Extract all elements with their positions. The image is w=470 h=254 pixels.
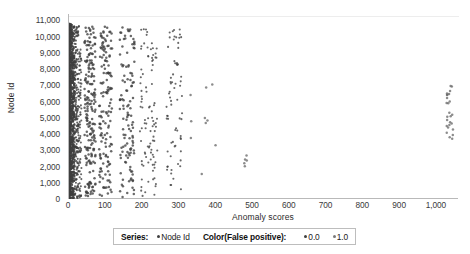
chart-legend[interactable]: Series: Node Id Color(False positive): 0… [113,228,356,245]
x-tick-label: 0 [66,200,71,210]
x-tick-label: 700 [319,200,333,210]
y-tick-label: 9,000 [40,48,60,58]
y-tick-label: 5,000 [40,113,60,123]
legend-series-dot [157,235,160,238]
x-tick-label: 300 [172,200,186,210]
y-tick-label: 1,000 [40,178,60,188]
y-tick-label: 0 [55,194,60,204]
x-tick-label: 200 [135,200,149,210]
y-axis-tick-labels: 01,0002,0003,0004,0005,0006,0007,0008,00… [8,10,64,202]
x-tick-label: 500 [245,200,259,210]
legend-color-label: Color(False positive): [203,232,286,242]
legend-color-value-1: 1.0 [337,232,348,242]
scatter-chart: Node Id 01,0002,0003,0004,0005,0006,0007… [0,0,470,254]
legend-color-entry-0[interactable]: 0.0 [304,232,319,242]
scatter-points-canvas [69,14,459,199]
legend-series-label: Series: [121,232,148,242]
y-tick-label: 3,000 [40,145,60,155]
legend-color-value-0: 0.0 [308,232,319,242]
legend-color-entry-1[interactable]: 1.0 [333,232,348,242]
legend-color-dot-0 [304,235,307,238]
y-tick-label: 2,000 [40,162,60,172]
y-tick-label: 7,000 [40,80,60,90]
x-tick-label: 400 [208,200,222,210]
x-axis-title: Anomaly scores [68,212,458,222]
x-tick-label: 600 [282,200,296,210]
legend-color-dot-1 [333,235,336,238]
y-tick-label: 10,000 [35,32,60,42]
legend-series-value: Node Id [161,232,190,242]
y-tick-label: 8,000 [40,64,60,74]
x-tick-label: 900 [392,200,406,210]
y-tick-label: 11,000 [36,15,60,25]
y-tick-label: 4,000 [40,129,60,139]
plot-area [68,14,458,199]
x-tick-label: 100 [98,200,112,210]
x-tick-label: 1,000 [426,200,446,210]
y-tick-label: 6,000 [40,97,60,107]
legend-series-entry[interactable]: Node Id [157,232,190,242]
x-tick-label: 800 [356,200,370,210]
